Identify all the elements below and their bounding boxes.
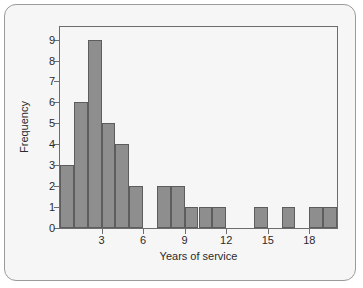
histogram-bar <box>74 102 88 228</box>
y-tick-label: 2 <box>49 181 55 192</box>
histogram-bar <box>323 207 337 228</box>
histogram-bars <box>60 27 337 228</box>
x-tick-label: 12 <box>220 235 232 246</box>
y-tick-label: 9 <box>49 34 55 45</box>
x-tick-label: 6 <box>140 235 146 246</box>
histogram-bar <box>282 207 296 228</box>
histogram-bar <box>60 165 74 228</box>
histogram-bar <box>88 40 102 228</box>
histogram-bar <box>185 207 199 228</box>
y-tick-label: 3 <box>49 160 55 171</box>
histogram-bar <box>115 144 129 228</box>
histogram-bar <box>212 207 226 228</box>
x-tick-label: 9 <box>182 235 188 246</box>
histogram-bar <box>102 123 116 228</box>
y-tick-label: 0 <box>49 223 55 234</box>
y-tick-label: 4 <box>49 139 55 150</box>
y-tick-label: 5 <box>49 118 55 129</box>
histogram-bar <box>254 207 268 228</box>
x-axis-label: Years of service <box>59 250 338 262</box>
x-tick-label: 3 <box>98 235 104 246</box>
histogram-bar <box>129 186 143 228</box>
histogram-bar <box>309 207 323 228</box>
y-tick-label: 1 <box>49 202 55 213</box>
histogram-figure: 0123456789 369121518 Years of service Fr… <box>0 0 363 288</box>
y-tick-label: 7 <box>49 76 55 87</box>
histogram-bar <box>157 186 171 228</box>
y-tick-label: 8 <box>49 55 55 66</box>
histogram-bar <box>171 186 185 228</box>
x-tick-label: 15 <box>262 235 274 246</box>
x-tick-label: 18 <box>303 235 315 246</box>
histogram-bar <box>199 207 213 228</box>
x-axis: 369121518 <box>60 229 337 249</box>
y-axis-label: Frequency <box>18 77 30 177</box>
y-tick-label: 6 <box>49 97 55 108</box>
